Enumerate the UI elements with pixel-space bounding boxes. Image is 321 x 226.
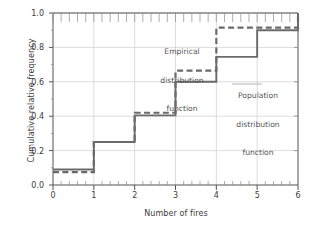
x-major-ticks-bottom [53, 185, 298, 190]
empirical-annotation-line1: Empirical [144, 47, 220, 57]
x-tick-label-2: 2 [128, 191, 142, 200]
x-tick-label-5: 5 [250, 191, 264, 200]
population-annotation-line2: distribution [220, 120, 296, 130]
empirical-annotation-line2: distribution [144, 76, 220, 86]
x-tick-label-1: 1 [87, 191, 101, 200]
empirical-annotation: Empirical distribution function [144, 28, 220, 133]
x-tick-label-6: 6 [291, 191, 305, 200]
population-annotation-line1: Population [220, 91, 296, 101]
chart-figure: 1.0 0.8 0.6 0.4 0.2 0.0 0 1 2 3 4 5 6 Cu… [0, 0, 321, 226]
x-tick-label-3: 3 [169, 191, 183, 200]
x-tick-label-0: 0 [46, 191, 60, 200]
x-axis-title: Number of fires [53, 209, 299, 218]
y-axis-title: Cumulative relative frequency [27, 16, 36, 186]
population-annotation: Population distribution function [220, 72, 296, 177]
x-tick-label-4: 4 [209, 191, 223, 200]
empirical-annotation-line3: function [144, 104, 220, 114]
population-annotation-line3: function [220, 148, 296, 158]
